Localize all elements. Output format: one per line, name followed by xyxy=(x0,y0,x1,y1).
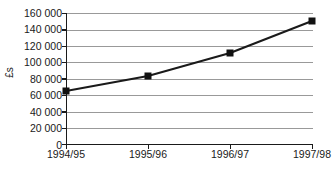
data-point-marker xyxy=(145,73,152,80)
x-tick-label: 1995/96 xyxy=(113,148,183,160)
data-point-marker xyxy=(309,18,316,25)
data-point-marker xyxy=(227,50,234,57)
data-point-markers xyxy=(63,18,316,95)
x-tick-label: 1996/97 xyxy=(195,148,265,160)
x-tick-label: 1997/98 xyxy=(277,148,336,160)
y-axis-ticks xyxy=(62,14,66,145)
data-point-marker xyxy=(63,88,70,95)
x-tick-label: 1994/95 xyxy=(31,148,101,160)
gridlines xyxy=(66,14,313,129)
data-series-line xyxy=(66,21,312,91)
x-axis-tick-labels: 1994/95 1995/96 1996/97 1997/98 xyxy=(0,148,329,168)
